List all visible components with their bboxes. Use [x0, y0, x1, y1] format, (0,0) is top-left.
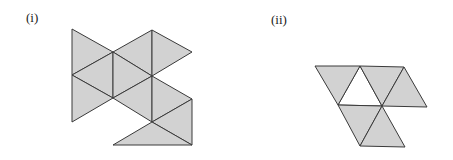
figure-canvas: (i) (ii) [0, 0, 453, 160]
figure-ii-label: (ii) [271, 12, 287, 27]
figure-ii-net [315, 66, 427, 147]
figure-i-label: (i) [26, 10, 38, 25]
figure-i-net [72, 29, 192, 145]
shaded-triangle [152, 30, 192, 76]
